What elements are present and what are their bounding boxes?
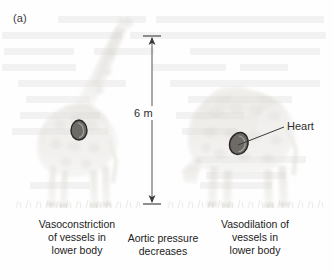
ground-left: [14, 198, 142, 208]
ground-right: [166, 198, 326, 208]
caption-right-line-1: Vasodilation of: [190, 218, 320, 231]
caption-vasodilation: Vasodilation of vessels in lower body: [190, 218, 320, 256]
figure-panel-a: (a): [0, 0, 333, 279]
panel-label: (a): [13, 12, 27, 24]
caption-flow-row: Vasoconstriction of vessels in lower bod…: [0, 214, 333, 276]
height-dimension-arrow: [126, 28, 180, 214]
height-dimension-label: 6 m: [133, 106, 155, 120]
caption-left-line-1: Vasoconstriction: [12, 218, 142, 231]
heart-label: Heart: [287, 120, 314, 132]
caption-right-line-3: lower body: [190, 244, 320, 257]
caption-right-line-2: vessels in: [190, 231, 320, 244]
giraffe-left: [22, 16, 142, 208]
heart-marker-left-giraffe: [70, 119, 88, 141]
heart-leader-line: [232, 118, 292, 150]
